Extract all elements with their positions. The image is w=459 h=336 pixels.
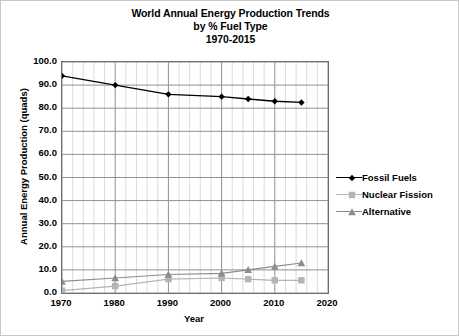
y-axis-tick-label: 0.0 (5, 286, 57, 297)
data-point-marker (62, 287, 65, 293)
legend-item[interactable]: Fossil Fuels (336, 169, 456, 186)
y-axis-label: Annual Energy Production (quads) (18, 67, 29, 267)
plot-area (61, 61, 329, 294)
legend-marker-icon (336, 189, 362, 201)
y-axis-tick-label: 60.0 (5, 147, 57, 158)
plot-svg (62, 62, 328, 293)
y-axis-tick-label: 90.0 (5, 78, 57, 89)
legend-item[interactable]: Nuclear Fission (336, 186, 456, 203)
x-axis-tick-label: 2020 (300, 297, 354, 308)
y-axis-tick-label: 30.0 (5, 217, 57, 228)
data-point-marker (165, 91, 171, 97)
x-axis-tick-label: 1990 (140, 297, 194, 308)
data-point-marker (272, 277, 278, 283)
data-point-marker (62, 73, 65, 79)
data-point-marker (348, 208, 356, 215)
legend-marker-icon (336, 172, 362, 184)
legend-item-label: Nuclear Fission (362, 189, 433, 200)
legend-marker-icon (336, 206, 362, 218)
x-axis-tick-label: 2010 (247, 297, 301, 308)
chart-container: World Annual Energy Production Trends by… (0, 0, 459, 336)
data-point-marker (349, 174, 355, 180)
legend-square-icon (346, 191, 358, 203)
y-axis-tick-label: 80.0 (5, 101, 57, 112)
x-axis-tick-label: 1980 (87, 297, 141, 308)
y-axis-tick-label: 20.0 (5, 240, 57, 251)
data-point-marker (112, 82, 118, 88)
series-line (62, 278, 301, 291)
x-axis-tick-label: 1970 (34, 297, 88, 308)
data-point-marker (112, 283, 118, 289)
legend-item-label: Fossil Fuels (362, 172, 417, 183)
data-point-marker (298, 277, 304, 283)
data-point-marker (272, 98, 278, 104)
chart-title: World Annual Energy Production Trends by… (1, 7, 459, 46)
legend-item[interactable]: Alternative (336, 203, 456, 220)
chart-title-line-1: World Annual Energy Production Trends (1, 7, 459, 20)
data-point-marker (245, 276, 251, 282)
chart-title-line-2: by % Fuel Type (1, 20, 459, 33)
legend-triangle-icon (346, 208, 358, 220)
series-line (62, 76, 301, 103)
y-axis-tick-labels: 0.010.020.030.040.050.060.070.080.090.01… (1, 1, 57, 336)
y-axis-tick-label: 10.0 (5, 263, 57, 274)
x-axis-tick-label: 2000 (194, 297, 248, 308)
legend-item-label: Alternative (362, 206, 411, 217)
y-axis-tick-label: 100.0 (5, 55, 57, 66)
legend-diamond-icon (346, 174, 358, 186)
data-point-marker (298, 99, 304, 105)
data-point-marker (218, 93, 224, 99)
x-axis-label: Year (61, 313, 327, 324)
chart-legend: Fossil FuelsNuclear FissionAlternative (336, 169, 456, 220)
y-axis-tick-label: 70.0 (5, 124, 57, 135)
y-axis-tick-label: 50.0 (5, 171, 57, 182)
data-point-marker (245, 96, 251, 102)
data-point-marker (349, 191, 355, 197)
chart-title-line-3: 1970-2015 (1, 33, 459, 46)
data-point-marker (298, 259, 306, 266)
y-axis-tick-label: 40.0 (5, 194, 57, 205)
